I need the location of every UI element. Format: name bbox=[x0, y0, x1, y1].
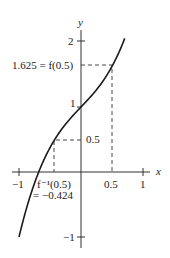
x-tick-label-half: 0.5 bbox=[104, 178, 118, 190]
y-tick-label-neg1: −1 bbox=[63, 231, 75, 243]
y-tick-label-2: 2 bbox=[68, 35, 74, 47]
x-tick-label-neg1: −1 bbox=[12, 178, 24, 190]
annotation-f-half: 1.625 = f(0.5) bbox=[12, 59, 74, 72]
x-axis-label: x bbox=[155, 165, 161, 177]
y-tick-label-half: 0.5 bbox=[86, 133, 100, 145]
function-plot: y x 2 1 0.5 −1 −1 0.5 1 1.625 = f(0.5) f… bbox=[0, 0, 170, 258]
y-tick-label-1: 1 bbox=[70, 97, 76, 109]
annotation-finv-line2: = −0.424 bbox=[33, 189, 73, 201]
x-tick-label-1: 1 bbox=[140, 178, 146, 190]
guide-finv-half bbox=[54, 140, 81, 172]
guide-f-half bbox=[81, 65, 112, 172]
y-axis-label: y bbox=[77, 16, 83, 28]
